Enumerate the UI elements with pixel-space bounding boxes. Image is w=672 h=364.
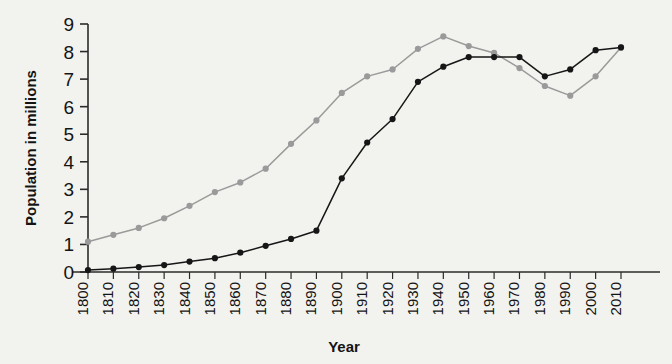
x-tick-label: 1920 <box>379 282 396 315</box>
series-black-point <box>186 258 192 264</box>
x-tick-label: 1830 <box>150 282 167 315</box>
series-black-point <box>313 228 319 234</box>
series-black-point <box>85 267 91 273</box>
series-gray-point <box>313 117 319 123</box>
series-gray-point <box>389 66 395 72</box>
series-gray-point <box>212 189 218 195</box>
x-tick-label: 2000 <box>582 282 599 315</box>
series-black-point <box>389 116 395 122</box>
x-tick-label: 1950 <box>455 282 472 315</box>
x-tick-label: 1890 <box>302 282 319 315</box>
x-tick-label: 1990 <box>556 282 573 315</box>
x-tick-label: 1850 <box>201 282 218 315</box>
y-tick-label: 0 <box>63 262 74 283</box>
series-gray-point <box>415 46 421 52</box>
series-gray-point <box>542 83 548 89</box>
series-black-point <box>491 54 497 60</box>
series-gray-point <box>440 33 446 39</box>
series-black-point <box>466 54 472 60</box>
y-axis-title: Population in millions <box>22 70 39 226</box>
series-black-point <box>288 236 294 242</box>
series-black-point <box>593 47 599 53</box>
x-tick-label: 1880 <box>277 282 294 315</box>
series-gray-point <box>364 73 370 79</box>
chart-canvas: 0123456789 18001810182018301840185018601… <box>0 0 672 364</box>
series-black-point <box>364 139 370 145</box>
x-tick-label: 1860 <box>226 282 243 315</box>
series-black-point <box>440 64 446 70</box>
series-gray-point <box>263 166 269 172</box>
series-black-point <box>339 175 345 181</box>
series-black-point <box>263 243 269 249</box>
series-gray-point <box>161 215 167 221</box>
series-gray-point <box>567 93 573 99</box>
series-black-point <box>110 266 116 272</box>
x-tick-label: 1910 <box>353 282 370 315</box>
series-black-point <box>567 66 573 72</box>
series-black-point <box>618 44 624 50</box>
y-tick-label: 7 <box>63 69 74 90</box>
x-tick-label: 1810 <box>99 282 116 315</box>
series-gray-point <box>85 239 91 245</box>
x-tick-label: 1970 <box>505 282 522 315</box>
x-tick-label: 1940 <box>429 282 446 315</box>
x-tick-label: 1870 <box>252 282 269 315</box>
y-tick-label: 3 <box>63 179 74 200</box>
series-gray-point <box>466 43 472 49</box>
x-tick-label: 1820 <box>125 282 142 315</box>
series-gray-point <box>136 225 142 231</box>
y-tick-label: 2 <box>63 207 74 228</box>
y-tick-label: 9 <box>63 14 74 35</box>
series-gray-point <box>288 141 294 147</box>
y-tick-label: 8 <box>63 42 74 63</box>
series-black-point <box>415 79 421 85</box>
x-tick-label: 1960 <box>480 282 497 315</box>
y-tick-label: 5 <box>63 124 74 145</box>
series-gray-point <box>516 65 522 71</box>
series-gray-point <box>110 232 116 238</box>
series-black-point <box>161 262 167 268</box>
x-tick-label: 2010 <box>607 282 624 315</box>
population-line-chart: 0123456789 18001810182018301840185018601… <box>0 0 672 364</box>
x-tick-label: 1900 <box>328 282 345 315</box>
x-tick-label: 1930 <box>404 282 421 315</box>
series-black-point <box>212 255 218 261</box>
y-tick-label: 1 <box>63 234 74 255</box>
series-black-point <box>516 54 522 60</box>
series-gray-point <box>186 203 192 209</box>
x-tick-label: 1800 <box>74 282 91 315</box>
x-axis-title: Year <box>328 338 360 355</box>
series-black-point <box>237 250 243 256</box>
series-gray-point <box>339 90 345 96</box>
x-tick-label: 1840 <box>176 282 193 315</box>
series-gray-point <box>593 73 599 79</box>
series-black-point <box>136 264 142 270</box>
y-tick-label: 6 <box>63 97 74 118</box>
x-tick-label: 1980 <box>531 282 548 315</box>
series-black-point <box>542 73 548 79</box>
series-gray-point <box>237 179 243 185</box>
y-tick-label: 4 <box>63 152 74 173</box>
